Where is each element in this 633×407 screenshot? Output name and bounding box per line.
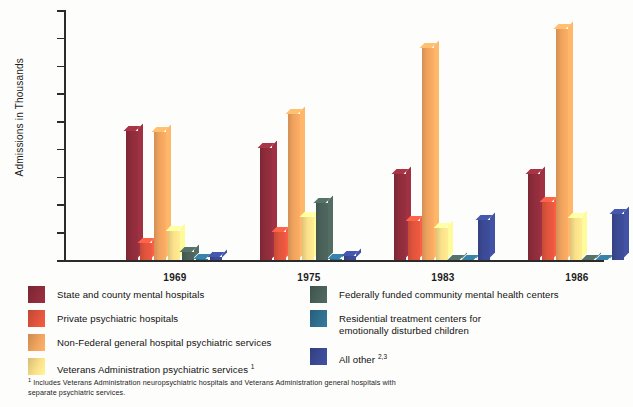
bar xyxy=(436,228,448,260)
bar xyxy=(154,132,166,260)
bar xyxy=(556,29,568,260)
legend-item[interactable]: Veterans Administration psychiatric serv… xyxy=(28,360,328,376)
legend-swatch xyxy=(28,286,45,303)
bar xyxy=(140,243,152,260)
bar-face xyxy=(210,257,222,260)
bar-face xyxy=(570,218,582,260)
bar xyxy=(274,232,286,260)
x-axis-label: 1975 xyxy=(297,272,320,283)
legend-swatch xyxy=(310,286,327,303)
bar xyxy=(330,259,342,260)
legend-swatch xyxy=(310,310,327,327)
bar-face xyxy=(436,228,448,260)
legend-label: Private psychiatric hospitals xyxy=(57,312,178,325)
bar xyxy=(542,202,554,260)
legend-label: Residential treatment centers foremotion… xyxy=(339,312,481,336)
bar-face xyxy=(408,221,420,260)
bar xyxy=(478,220,490,260)
bar-side xyxy=(448,221,453,258)
x-axis-label: 1983 xyxy=(431,272,454,283)
y-tick-mark xyxy=(57,38,65,40)
footnote: 1Includes Veterans Administration neurop… xyxy=(28,376,498,398)
y-tick-mark xyxy=(57,149,65,151)
legend-column-2: Federally funded community mental health… xyxy=(310,288,610,375)
x-axis-line xyxy=(64,260,604,262)
legend-item[interactable]: Private psychiatric hospitals xyxy=(28,312,328,327)
legend-item[interactable]: State and county mental hospitals xyxy=(28,288,328,303)
bar-group xyxy=(394,10,502,260)
bar-face xyxy=(528,174,540,260)
bar-face xyxy=(344,256,356,260)
bar xyxy=(408,221,420,260)
bar-group xyxy=(528,10,633,260)
x-axis-label: 1969 xyxy=(163,272,186,283)
bar-face xyxy=(154,132,166,260)
legend-swatch xyxy=(28,310,45,327)
legend-superscript: 1 xyxy=(251,363,255,370)
legend-swatch xyxy=(310,348,327,365)
bar-face xyxy=(394,174,406,260)
bar-side xyxy=(356,248,361,257)
legend-label-line-2: emotionally disturbed children xyxy=(339,325,469,336)
bar xyxy=(196,259,208,260)
y-tick-mark xyxy=(57,66,65,68)
bar xyxy=(344,256,356,260)
legend-label: Veterans Administration psychiatric serv… xyxy=(57,360,255,376)
y-axis-title: Admissions in Thousands xyxy=(14,58,30,176)
y-axis-line xyxy=(64,10,66,260)
bar xyxy=(612,214,624,260)
bar xyxy=(570,218,582,260)
bar-face xyxy=(140,243,152,260)
bar xyxy=(260,148,272,261)
legend-label: All other 2,3 xyxy=(339,350,387,366)
bar xyxy=(464,260,476,261)
legend-label: Non-Federal general hospital psychiatric… xyxy=(57,336,271,349)
bar-group xyxy=(126,10,234,260)
y-tick-mark xyxy=(57,10,65,12)
bar-face xyxy=(612,214,624,260)
bar xyxy=(288,114,300,260)
bar-face xyxy=(542,202,554,260)
y-tick-mark xyxy=(57,121,65,123)
bar-face xyxy=(316,203,328,260)
bar-face xyxy=(126,131,138,260)
bar xyxy=(210,257,222,260)
footnote-line-2: separate psychiatric services. xyxy=(28,388,125,397)
bar-face xyxy=(260,148,272,261)
bar-face xyxy=(422,48,434,261)
y-tick-mark xyxy=(57,93,65,95)
bar-face xyxy=(478,220,490,260)
legend-item[interactable]: Federally funded community mental health… xyxy=(310,288,610,303)
y-tick-mark xyxy=(57,232,65,234)
bar-face xyxy=(302,217,314,260)
bar-side xyxy=(328,196,333,258)
legend-item[interactable]: All other 2,3 xyxy=(310,350,610,366)
legend-superscript: 2,3 xyxy=(378,353,387,360)
bar-face xyxy=(288,114,300,260)
bar-face xyxy=(168,231,180,260)
legend-column-1: State and county mental hospitalsPrivate… xyxy=(28,288,328,385)
legend-item[interactable]: Non-Federal general hospital psychiatric… xyxy=(28,336,328,351)
bar-face xyxy=(556,29,568,260)
legend-swatch xyxy=(28,358,45,375)
legend-swatch xyxy=(28,334,45,351)
legend-label: State and county mental hospitals xyxy=(57,288,204,301)
bar-face xyxy=(274,232,286,260)
y-tick-mark xyxy=(57,177,65,179)
bar xyxy=(422,48,434,261)
legend-item[interactable]: Residential treatment centers foremotion… xyxy=(310,312,610,336)
bar xyxy=(394,174,406,260)
footnote-marker: 1 xyxy=(28,377,31,383)
plot-area: 9008007006005004003002001000 19691975198… xyxy=(64,10,604,260)
bar xyxy=(528,174,540,260)
bar-side xyxy=(582,211,587,258)
bar-side xyxy=(624,207,629,258)
bar xyxy=(168,231,180,260)
bar xyxy=(316,203,328,260)
bar xyxy=(598,260,610,261)
bar xyxy=(302,217,314,260)
x-axis-label: 1986 xyxy=(565,272,588,283)
y-tick-mark xyxy=(57,260,65,262)
legend-label: Federally funded community mental health… xyxy=(339,288,559,301)
